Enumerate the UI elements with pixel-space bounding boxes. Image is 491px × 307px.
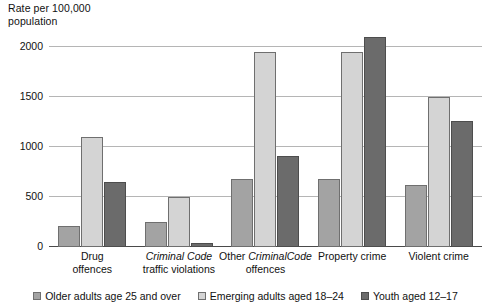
x-axis-label-part: offences: [246, 263, 286, 275]
bar[interactable]: [277, 156, 299, 248]
y-tick-label-2000: 2000: [20, 40, 43, 52]
bar-group: [49, 45, 136, 247]
legend-swatch-icon: [361, 292, 369, 300]
y-tick-label-500: 500: [25, 190, 43, 202]
legend-item[interactable]: Older adults age 25 and over: [33, 290, 180, 302]
bar[interactable]: [191, 243, 213, 248]
bar[interactable]: [58, 226, 80, 248]
bar-group: [309, 45, 396, 247]
bars-layer: [49, 45, 482, 247]
bar[interactable]: [451, 121, 473, 247]
x-axis-label: Violent crime: [387, 250, 490, 263]
bar[interactable]: [168, 197, 190, 247]
bar-group: [136, 45, 223, 247]
x-axis-label-part: Criminal: [248, 250, 287, 262]
legend-swatch-icon: [198, 292, 206, 300]
bar[interactable]: [104, 182, 126, 248]
bar[interactable]: [341, 52, 363, 247]
bar[interactable]: [81, 137, 103, 248]
bar-group: [395, 45, 482, 247]
bar[interactable]: [318, 179, 340, 247]
x-axis-label-part: Other: [219, 250, 248, 262]
y-axis-title: Rate per 100,000 population: [8, 2, 91, 28]
bar[interactable]: [231, 179, 253, 248]
legend-item[interactable]: Emerging adults aged 18–24: [198, 290, 344, 302]
bar[interactable]: [254, 52, 276, 247]
x-axis-label-line: Violent crime: [387, 250, 490, 263]
legend-label: Emerging adults aged 18–24: [210, 290, 344, 302]
bar[interactable]: [364, 37, 386, 247]
legend-label: Older adults age 25 and over: [45, 290, 180, 302]
bar[interactable]: [145, 222, 167, 248]
bar[interactable]: [428, 97, 450, 248]
legend-item[interactable]: Youth aged 12–17: [361, 290, 458, 302]
y-tick-label-1000: 1000: [20, 140, 43, 152]
grouped-bar-chart: Rate per 100,000 population 050010001500…: [0, 0, 491, 307]
x-axis-category-labels: DrugoffencesCriminal Codetraffic violati…: [49, 250, 482, 280]
legend-swatch-icon: [33, 292, 41, 300]
chart-legend: Older adults age 25 and overEmerging adu…: [0, 287, 491, 305]
y-tick-label-1500: 1500: [20, 90, 43, 102]
legend-label: Youth aged 12–17: [373, 290, 458, 302]
plot-area: 0500100015002000: [49, 45, 482, 247]
bar[interactable]: [405, 185, 427, 248]
bar-group: [222, 45, 309, 247]
